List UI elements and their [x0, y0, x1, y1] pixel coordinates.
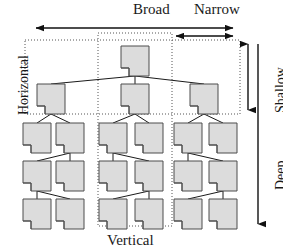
- tree-dimensions-figure: Broad Narrow Horizontal Shallow Deep Ver…: [0, 0, 283, 252]
- tree-node: [23, 161, 51, 191]
- tree-connector: [188, 153, 223, 161]
- document-icon: [23, 161, 51, 191]
- document-fold-icon: [56, 145, 64, 153]
- document-icon: [209, 161, 237, 191]
- document-icon: [135, 123, 163, 153]
- tree-node: [174, 123, 202, 153]
- tree-node: [99, 161, 127, 191]
- tree-nodes: [23, 46, 237, 229]
- tree-node: [135, 123, 163, 153]
- tree-node: [121, 84, 149, 114]
- document-icon: [56, 161, 84, 191]
- tree-connector: [51, 114, 70, 123]
- document-icon: [174, 123, 202, 153]
- document-fold-icon: [209, 183, 217, 191]
- tree-connector: [37, 153, 70, 161]
- document-icon: [121, 84, 149, 114]
- document-fold-icon: [56, 221, 64, 229]
- document-icon: [174, 199, 202, 229]
- document-fold-icon: [121, 68, 129, 76]
- document-icon: [135, 199, 163, 229]
- tree-connector: [37, 114, 51, 123]
- document-fold-icon: [23, 145, 31, 153]
- tree-node: [56, 199, 84, 229]
- tree-node: [121, 46, 149, 76]
- tree-connector: [204, 114, 223, 123]
- tree-node: [135, 199, 163, 229]
- tree-node: [23, 123, 51, 153]
- label-horizontal: Horizontal: [17, 55, 31, 115]
- tree-connector: [113, 153, 149, 161]
- document-icon: [99, 123, 127, 153]
- tree-connector: [113, 191, 149, 199]
- document-fold-icon: [23, 183, 31, 191]
- document-icon: [56, 199, 84, 229]
- document-fold-icon: [56, 183, 64, 191]
- tree-connector: [188, 191, 223, 199]
- document-fold-icon: [209, 145, 217, 153]
- tree-node: [209, 123, 237, 153]
- tree-node: [99, 199, 127, 229]
- tree-node: [174, 161, 202, 191]
- document-icon: [135, 161, 163, 191]
- tree-node: [174, 199, 202, 229]
- tree-connector: [135, 114, 149, 123]
- document-icon: [190, 84, 218, 114]
- label-narrow: Narrow: [194, 2, 240, 17]
- document-fold-icon: [174, 183, 182, 191]
- label-vertical: Vertical: [107, 233, 154, 248]
- tree-connector: [113, 114, 135, 123]
- document-icon: [174, 161, 202, 191]
- document-fold-icon: [174, 221, 182, 229]
- document-icon: [209, 199, 237, 229]
- tree-connector: [135, 76, 204, 84]
- document-fold-icon: [209, 221, 217, 229]
- document-fold-icon: [135, 183, 143, 191]
- document-fold-icon: [121, 106, 129, 114]
- document-icon: [23, 123, 51, 153]
- document-icon: [37, 84, 65, 114]
- tree-connector: [37, 191, 70, 199]
- label-shallow: Shallow: [274, 67, 283, 113]
- document-fold-icon: [99, 183, 107, 191]
- tree-node: [99, 123, 127, 153]
- document-icon: [209, 123, 237, 153]
- document-fold-icon: [135, 145, 143, 153]
- tree-node: [56, 161, 84, 191]
- tree-node: [56, 123, 84, 153]
- document-icon: [56, 123, 84, 153]
- tree-node: [209, 161, 237, 191]
- document-fold-icon: [23, 221, 31, 229]
- figure-canvas: [0, 0, 283, 252]
- document-fold-icon: [174, 145, 182, 153]
- document-icon: [23, 199, 51, 229]
- document-fold-icon: [37, 106, 45, 114]
- tree-node: [209, 199, 237, 229]
- document-fold-icon: [190, 106, 198, 114]
- document-fold-icon: [135, 221, 143, 229]
- document-fold-icon: [99, 145, 107, 153]
- tree-connector: [188, 114, 204, 123]
- tree-connector: [51, 76, 135, 84]
- tree-node: [23, 199, 51, 229]
- document-icon: [99, 161, 127, 191]
- tree-node: [135, 161, 163, 191]
- document-icon: [121, 46, 149, 76]
- document-fold-icon: [99, 221, 107, 229]
- tree-node: [190, 84, 218, 114]
- label-broad: Broad: [133, 2, 170, 17]
- tree-node: [37, 84, 65, 114]
- document-icon: [99, 199, 127, 229]
- label-deep: Deep: [274, 160, 283, 190]
